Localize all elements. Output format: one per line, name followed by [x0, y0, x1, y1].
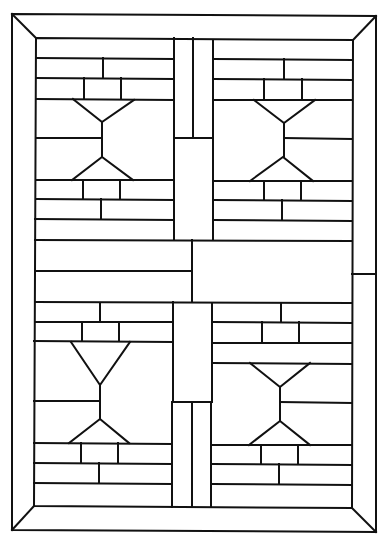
center-column-top [174, 38, 213, 240]
quadrant-bottom-right [212, 303, 352, 485]
stained-glass-diagram [0, 0, 388, 544]
center-band [35, 240, 352, 303]
quadrant-top-left [35, 58, 174, 220]
center-column-bottom [172, 302, 212, 507]
quadrant-top-right [213, 59, 352, 221]
quadrant-bottom-left [34, 303, 172, 484]
pattern-svg [0, 0, 388, 544]
